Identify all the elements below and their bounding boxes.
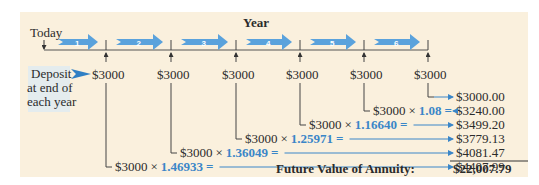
year-number: 2 bbox=[137, 39, 142, 48]
year-number: 1 bbox=[75, 39, 80, 48]
growth-factor: 1.16640 bbox=[355, 117, 397, 132]
calc-expression: $3000×1.16640= bbox=[309, 117, 408, 132]
calc-expression: $3000×1.46933= bbox=[115, 159, 214, 174]
growth-factor: 1.36049 bbox=[226, 145, 269, 160]
calc-deposit: $3000 bbox=[115, 159, 148, 174]
equals-symbol: = bbox=[336, 131, 343, 146]
today-label: Today bbox=[30, 25, 63, 40]
future-value-amount: $3779.13 bbox=[456, 131, 505, 146]
calc-row: $3000.00 bbox=[428, 83, 505, 104]
calc-expression: $3000×1.08= bbox=[373, 103, 452, 118]
deposit-amount: $3000 bbox=[350, 67, 383, 82]
equals-symbol: = bbox=[400, 117, 407, 132]
bracket-line bbox=[106, 83, 112, 167]
deposit-label-line-3: each year bbox=[27, 94, 77, 109]
deposit-amount: $3000 bbox=[286, 67, 319, 82]
bracket-line bbox=[300, 83, 306, 125]
times-symbol: × bbox=[151, 159, 158, 174]
equals-symbol: = bbox=[445, 103, 452, 118]
calc-deposit: $3000 bbox=[245, 131, 278, 146]
total-label: Future Value of Annuity: bbox=[276, 161, 415, 176]
times-symbol: × bbox=[345, 117, 352, 132]
year-number: 3 bbox=[202, 39, 207, 48]
times-symbol: × bbox=[216, 145, 223, 160]
calc-deposit: $3000 bbox=[309, 117, 342, 132]
growth-factor: 1.08 bbox=[419, 103, 442, 118]
year-number: 4 bbox=[266, 39, 271, 48]
equals-symbol: = bbox=[271, 145, 278, 160]
year-number: 5 bbox=[330, 39, 335, 48]
deposit-amount: $3000 bbox=[222, 67, 255, 82]
deposit-label-line-1: Deposit bbox=[31, 66, 72, 81]
future-value-amount: $4081.47 bbox=[456, 145, 505, 160]
deposit-pointer-icon bbox=[71, 69, 91, 79]
times-symbol: × bbox=[409, 103, 416, 118]
bracket-line bbox=[428, 83, 434, 97]
bracket-line bbox=[364, 83, 370, 111]
year-axis-label: Year bbox=[243, 15, 269, 30]
future-value-amount: $3499.20 bbox=[456, 117, 505, 132]
annuity-diagram: Year Today 123456 Deposit at end of each… bbox=[0, 0, 539, 185]
calc-expression: $3000×1.36049= bbox=[180, 145, 279, 160]
growth-factor: 1.25971 bbox=[291, 131, 333, 146]
calc-deposit: $3000 bbox=[373, 103, 406, 118]
growth-factor: 1.46933 bbox=[161, 159, 204, 174]
year-number: 6 bbox=[394, 39, 399, 48]
future-value-amount: $3000.00 bbox=[456, 89, 505, 104]
equals-symbol: = bbox=[206, 159, 213, 174]
deposit-label-line-2: at end of bbox=[27, 80, 73, 95]
deposit-amount: $3000 bbox=[414, 67, 447, 82]
calc-deposit: $3000 bbox=[180, 145, 213, 160]
calc-expression: $3000×1.25971= bbox=[245, 131, 344, 146]
bracket-line bbox=[171, 83, 177, 153]
times-symbol: × bbox=[281, 131, 288, 146]
deposit-amount: $3000 bbox=[92, 67, 125, 82]
deposit-amount: $3000 bbox=[157, 67, 190, 82]
total-value: $22,007.79 bbox=[453, 161, 512, 176]
bracket-line bbox=[236, 83, 242, 139]
future-value-amount: $3240.00 bbox=[456, 103, 505, 118]
